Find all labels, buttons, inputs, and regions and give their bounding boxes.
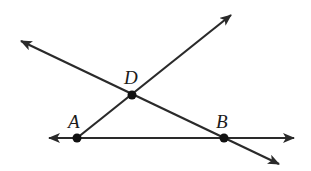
line-db [21,41,279,164]
geometry-diagram: A D B [0,0,311,171]
label-b: B [216,111,228,132]
point-a [73,134,82,143]
point-d [128,91,137,100]
label-d: D [123,67,138,88]
point-b [220,134,229,143]
line-ad [77,15,231,138]
label-a: A [66,111,80,132]
